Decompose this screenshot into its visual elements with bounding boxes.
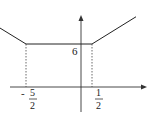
graph-segment-3 [92, 17, 136, 44]
x-tick-left-sign: - [21, 87, 25, 99]
x-tick-right-numerator: 1 [96, 87, 101, 98]
piecewise-graph: 6 - 5 2 1 2 [0, 0, 152, 127]
graph-segment-1 [0, 21, 26, 44]
x-tick-left-numerator: 5 [30, 87, 35, 98]
x-tick-right-denominator: 2 [96, 100, 101, 111]
y-level-label: 6 [72, 45, 78, 57]
x-tick-left-denominator: 2 [30, 100, 35, 111]
x-axis-arrow [141, 85, 147, 90]
y-axis-arrow [79, 15, 84, 21]
